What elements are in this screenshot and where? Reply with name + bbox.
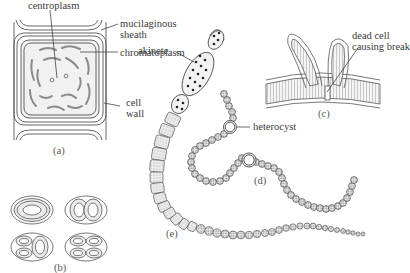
panel-a-cell bbox=[14, 20, 106, 140]
label-mucilaginous-sheath-2: sheath bbox=[120, 29, 147, 40]
label-mucilaginous-sheath-1: mucilaginous bbox=[120, 18, 177, 29]
panel-label-b: (b) bbox=[54, 262, 66, 273]
panel-e-vegetative-cells bbox=[150, 112, 198, 233]
panel-label-a: (a) bbox=[53, 145, 65, 156]
label-dead-cell-2: causing break bbox=[352, 41, 410, 52]
label-akinete: akinete bbox=[138, 45, 168, 56]
panel-d-chain bbox=[188, 91, 358, 213]
panel-label-e: (e) bbox=[166, 228, 178, 239]
label-cell-wall-2: wall bbox=[126, 108, 144, 119]
label-dead-cell-1: dead cell bbox=[352, 30, 390, 41]
panel-b-cells bbox=[11, 196, 107, 261]
label-cell-wall-1: cell bbox=[126, 97, 141, 108]
panel-label-c: (c) bbox=[318, 108, 330, 119]
panel-label-d: (d) bbox=[254, 175, 266, 186]
label-centroplasm: centroplasm bbox=[28, 0, 79, 11]
label-heterocyst: heterocyst bbox=[253, 121, 296, 132]
panel-e-tail-cells bbox=[197, 223, 366, 239]
